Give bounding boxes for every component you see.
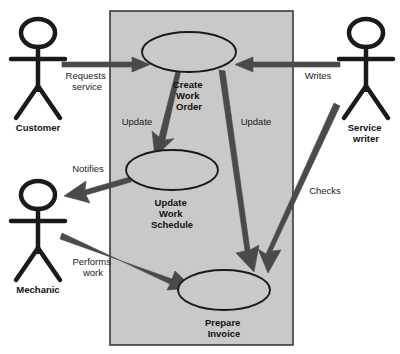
use-case-label: Create Work Order xyxy=(173,79,205,112)
association-label-update-schedule: Update xyxy=(122,116,153,127)
stick-figure-icon xyxy=(11,181,65,280)
use-case-label: Prepare Invoice xyxy=(205,317,243,339)
actor-customer[interactable]: Customer xyxy=(11,19,65,133)
use-case-diagram: Create Work Order Update Work Schedule P… xyxy=(0,0,400,354)
actor-service-writer[interactable]: Service writer xyxy=(339,19,393,144)
association-label-requests-service: Requests service xyxy=(66,70,109,92)
actor-label: Customer xyxy=(16,122,61,133)
association-label-checks: Checks xyxy=(309,185,341,196)
use-case-ellipse xyxy=(178,270,270,310)
association-label-writes: Writes xyxy=(305,70,332,81)
association-label-update-invoice: Update xyxy=(241,116,272,127)
actor-label: Service writer xyxy=(348,122,384,144)
actor-mechanic[interactable]: Mechanic xyxy=(11,181,65,295)
actor-label: Mechanic xyxy=(16,284,59,295)
use-case-ellipse xyxy=(142,32,236,72)
use-case-ellipse xyxy=(126,150,218,190)
association-label-performs-work: Performs work xyxy=(72,256,113,278)
diagram-canvas: Create Work Order Update Work Schedule P… xyxy=(0,0,400,354)
stick-figure-icon xyxy=(11,19,65,118)
association-label-notifies: Notifies xyxy=(72,163,104,174)
stick-figure-icon xyxy=(339,19,393,118)
